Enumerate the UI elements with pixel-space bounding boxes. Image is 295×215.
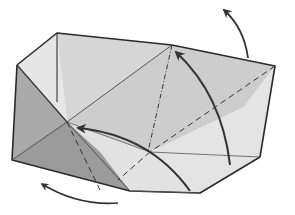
arrow-top-right-up-icon [224, 10, 248, 58]
arrow-bottom-left-icon [42, 184, 118, 203]
origami-diagram [0, 0, 295, 215]
